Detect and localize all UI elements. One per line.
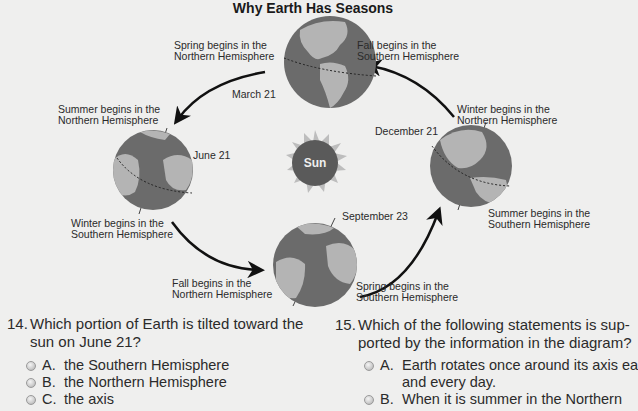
question-15: 15. Which of the following statements is… <box>335 316 635 352</box>
question-14-text: Which portion of Earth is tilted toward … <box>7 315 307 351</box>
orbit-arrow-december-to-march <box>371 66 454 117</box>
date-march-21: March 21 <box>232 88 276 100</box>
q14-option-c[interactable]: C. the axis <box>26 391 229 408</box>
globe-december-21-icon <box>430 122 512 210</box>
q14-option-b[interactable]: B. the Northern Hemisphere <box>26 374 229 391</box>
label-summer-south: Summer begins in the Southern Hemisphere <box>488 208 590 230</box>
label-summer-north: Summer begins in the Northern Hemisphere <box>58 104 160 126</box>
date-june-21: June 21 <box>193 149 230 161</box>
radio-button[interactable] <box>364 361 374 371</box>
q14-option-a[interactable]: A. the Southern Hemisphere <box>26 357 229 374</box>
question-15-text: Which of the following statements is sup… <box>335 316 635 352</box>
q15-option-a-continued: and every day. <box>364 374 638 391</box>
globe-june-21-icon <box>113 128 193 214</box>
radio-button[interactable] <box>26 395 36 405</box>
radio-button[interactable] <box>26 361 36 371</box>
label-fall-north: Fall begins in the Northern Hemisphere <box>172 278 272 300</box>
radio-button[interactable] <box>364 395 374 405</box>
date-september-23: September 23 <box>342 210 408 222</box>
question-14-options: A. the Southern Hemisphere B. the Northe… <box>26 357 229 408</box>
label-spring-south: Spring begins in the Southern Hemisphere <box>356 281 458 303</box>
label-spring-north: Spring begins in the Northern Hemisphere <box>174 40 274 62</box>
radio-button[interactable] <box>26 378 36 388</box>
sun-label: Sun <box>300 156 330 170</box>
globe-march-21-icon <box>284 16 376 108</box>
label-winter-north: Winter begins in the Northern Hemisphere <box>457 104 557 126</box>
label-fall-south: Fall begins in the Southern Hemisphere <box>357 40 459 62</box>
orbit-arrow-june-to-september <box>172 222 258 270</box>
question-15-options: A. Earth rotates once around its axis ea… <box>364 357 638 408</box>
question-14: 14. Which portion of Earth is tilted tow… <box>7 315 307 351</box>
date-december-21: December 21 <box>375 125 438 137</box>
question-15-number: 15. <box>335 316 356 334</box>
globe-september-23-icon <box>273 218 358 307</box>
q15-option-b[interactable]: B. When it is summer in the Northern <box>364 391 638 408</box>
q15-option-a[interactable]: A. Earth rotates once around its axis ea <box>364 357 638 374</box>
question-14-number: 14. <box>7 315 28 333</box>
label-winter-south: Winter begins in the Southern Hemisphere <box>71 218 173 240</box>
